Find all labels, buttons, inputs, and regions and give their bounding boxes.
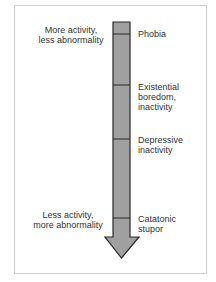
segment-label-existential: Existential boredom, inactivity [138,82,179,112]
top-axis-line-1: More activity, [36,25,106,35]
top-axis-line-2: less abnormality [36,35,106,45]
segment-label-depressive: Depressive inactivity [138,135,183,155]
arrow-shape [105,22,139,258]
segment-label-line: inactivity [138,145,183,155]
segment-label-line: Existential [138,82,179,92]
bottom-axis-line-1: Less activity, [28,210,108,220]
segment-label-line: stupor [138,224,176,234]
segment-label-line: inactivity [138,102,179,112]
segment-label-phobia: Phobia [138,29,166,39]
top-axis-label: More activity, less abnormality [36,25,106,45]
segment-label-line: Phobia [138,29,166,39]
segment-label-line: Depressive [138,135,183,145]
segment-label-line: Catatonic [138,214,176,224]
bottom-axis-label: Less activity, more abnormality [28,210,108,230]
bottom-axis-line-2: more abnormality [28,220,108,230]
segment-label-catatonic: Catatonic stupor [138,214,176,234]
activity-arrow [0,0,216,282]
segment-label-line: boredom, [138,92,179,102]
